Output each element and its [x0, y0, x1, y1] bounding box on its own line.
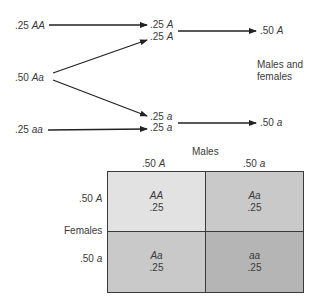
pool-label-line2: females: [257, 71, 303, 83]
freq: .25: [150, 19, 164, 30]
col-header-A: .50 A: [142, 158, 165, 169]
cell-aa: aa .25: [206, 232, 303, 292]
cell-genotype: Aa: [150, 250, 162, 262]
gamete-A-1: .25 A: [150, 19, 173, 30]
freq: .25: [15, 124, 29, 135]
cell-freq: .25: [150, 262, 164, 274]
cell-genotype: Aa: [248, 190, 260, 202]
freq: .25: [150, 122, 164, 133]
allele: A: [167, 19, 174, 30]
parent-AA-label: .25 AA: [15, 20, 45, 31]
row-header-a: .50 a: [80, 253, 102, 264]
cell-Aa-top: Aa .25: [206, 172, 303, 231]
row-header-A: .50 A: [79, 193, 102, 204]
freq: .50: [243, 158, 257, 169]
cell-freq: .25: [248, 262, 262, 274]
col-header-a: .50 a: [243, 158, 265, 169]
genotype: AA: [32, 20, 45, 31]
arrow-aa-to-a: [48, 129, 147, 130]
males-label: Males: [192, 146, 219, 157]
gamete-a-1: .25 a: [150, 111, 172, 122]
arrow-Aa-to-A: [53, 40, 147, 73]
vertical-divider: [205, 172, 206, 292]
allele: A: [277, 25, 284, 36]
freq: .25: [15, 20, 29, 31]
freq: .50: [142, 158, 156, 169]
pool-label: Males and females: [257, 59, 303, 83]
cell-Aa-bottom: Aa .25: [108, 232, 205, 292]
genotype: aa: [32, 124, 43, 135]
freq: .50: [260, 117, 274, 128]
pool-label-line1: Males and: [257, 59, 303, 71]
allele: a: [277, 117, 283, 128]
gamete-a-2: .25 a: [150, 122, 172, 133]
parent-Aa-label: .50 Aa: [15, 72, 44, 83]
freq: .50: [80, 253, 94, 264]
allele: A: [167, 31, 174, 42]
allele: a: [167, 111, 173, 122]
cell-AA: AA .25: [108, 172, 205, 231]
freq: .50: [15, 72, 29, 83]
horizontal-divider: [108, 231, 303, 232]
allele: A: [159, 158, 166, 169]
cell-genotype: aa: [249, 250, 260, 262]
freq: .25: [150, 31, 164, 42]
allele: a: [260, 158, 266, 169]
gamete-A-2: .25 A: [150, 31, 173, 42]
cell-genotype: AA: [150, 190, 163, 202]
punnett-square: AA .25 Aa .25 Aa .25 aa .25: [107, 171, 304, 293]
allele: A: [96, 193, 103, 204]
cell-freq: .25: [248, 202, 262, 214]
allele: a: [97, 253, 103, 264]
arrow-Aa-to-a: [53, 80, 147, 116]
freq: .50: [260, 25, 274, 36]
pool-A: .50 A: [260, 25, 283, 36]
allele: a: [167, 122, 173, 133]
freq: .25: [150, 111, 164, 122]
pool-a: .50 a: [260, 117, 282, 128]
females-label: Females: [64, 225, 102, 236]
cell-freq: .25: [150, 202, 164, 214]
freq: .50: [79, 193, 93, 204]
genotype: Aa: [32, 72, 44, 83]
parent-aa-label: .25 aa: [15, 124, 43, 135]
